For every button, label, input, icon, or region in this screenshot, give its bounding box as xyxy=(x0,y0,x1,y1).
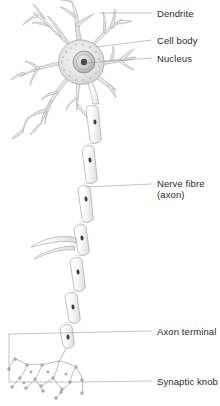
neuron-diagram: Dendrite Cell body Nucleus Nerve fibre (… xyxy=(0,0,220,406)
leader-synaptic-knob xyxy=(74,381,152,382)
axon-terminal-arbor xyxy=(9,348,83,398)
label-nerve-fibre: Nerve fibre xyxy=(157,178,205,190)
leader-cell-body xyxy=(96,40,152,47)
label-cell-body: Cell body xyxy=(157,35,198,47)
leader-axon-terminal xyxy=(9,331,152,334)
label-dendrite: Dendrite xyxy=(157,8,194,20)
leader-nerve-fibre xyxy=(86,184,152,187)
nucleolus-shape xyxy=(81,59,87,65)
axon-hillock xyxy=(88,82,99,104)
label-axon-terminal: Axon terminal xyxy=(157,326,216,338)
label-nucleus: Nucleus xyxy=(157,53,192,65)
myelinated-axon xyxy=(31,106,101,349)
label-synaptic-knob: Synaptic knob xyxy=(157,376,218,388)
label-axon-parenthetical: (axon) xyxy=(157,189,185,201)
axon-collateral xyxy=(31,237,76,247)
